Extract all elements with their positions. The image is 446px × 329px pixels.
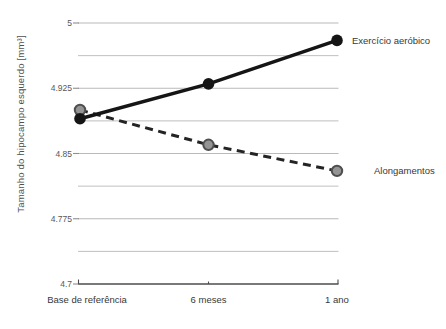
x-tick-label: Base de referência — [47, 294, 127, 305]
y-tick-label: 4.7 — [60, 279, 72, 289]
y-tick-label: 4.775 — [51, 214, 73, 224]
data-point-alongamentos — [203, 140, 213, 150]
y-tick-label: 4.85 — [55, 149, 72, 159]
data-point-alongamentos — [332, 166, 342, 176]
chart-canvas: 54.9254.854.7754.7Base de referência6 me… — [0, 0, 446, 329]
series-label-exercicio-aerobico: Exercício aeróbico — [352, 35, 430, 46]
y-axis-title: Tamanho do hipocampo esquerdo [mm³] — [15, 35, 26, 213]
x-tick-label: 6 meses — [191, 294, 227, 305]
series-label-alongamentos: Alongamentos — [374, 165, 435, 176]
data-point-exercicio-aerobico — [331, 35, 343, 47]
hippocampus-volume-line-chart: 54.9254.854.7754.7Base de referência6 me… — [0, 0, 446, 329]
x-tick-label: 1 ano — [325, 294, 349, 305]
y-tick-label: 5 — [67, 18, 72, 28]
y-tick-label: 4.925 — [51, 83, 73, 93]
data-point-exercicio-aerobico — [203, 78, 215, 90]
data-point-exercicio-aerobico — [74, 113, 86, 125]
